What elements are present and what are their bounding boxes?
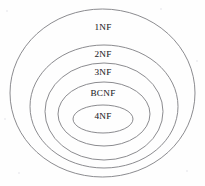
label-4nf: 4NF <box>94 112 111 121</box>
label-3nf: 3NF <box>94 68 111 77</box>
label-1nf: 1NF <box>94 23 111 32</box>
label-bcnf: BCNF <box>90 89 115 98</box>
normal-forms-diagram: 1NF 2NF 3NF BCNF 4NF <box>0 0 205 186</box>
label-2nf: 2NF <box>94 50 111 59</box>
